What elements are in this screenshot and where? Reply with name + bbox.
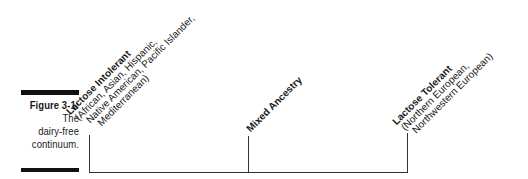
label-detail-1: (African, Asian, Hispanic,: [72, 6, 190, 124]
label-detail-1: (Northern European,: [398, 44, 488, 134]
tick-lactose-tolerant: [407, 133, 408, 172]
caption-line-3: continuum.: [11, 138, 79, 151]
caption-bottom-rule: [21, 168, 79, 172]
label-lactose-intolerant: Lactose Intolerant (African, Asian, Hisp…: [65, 0, 204, 138]
label-detail-2: Native American, Pacific Islander,: [79, 13, 197, 131]
tick-mixed-ancestry: [248, 136, 249, 172]
caption-line-2: dairy-free: [11, 125, 79, 138]
tick-lactose-intolerant: [89, 135, 90, 172]
label-lactose-tolerant: Lactose Tolerant (Northern European, Nor…: [391, 37, 495, 141]
caption-top-rule: [21, 90, 79, 95]
continuum-baseline: [89, 172, 408, 173]
label-mixed-ancestry: Mixed Ancestry: [245, 75, 304, 134]
label-title: Mixed Ancestry: [245, 75, 304, 134]
